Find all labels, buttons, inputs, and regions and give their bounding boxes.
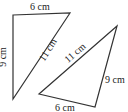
congruent-triangles-diagram: 6 cm 9 cm 11 cm 11 cm 9 cm 6 cm <box>0 0 128 112</box>
triangle-2-bottom-label: 6 cm <box>55 103 75 112</box>
triangle-1-left-label: 9 cm <box>0 47 8 67</box>
triangle-1-top-label: 6 cm <box>30 2 50 12</box>
triangle-2-right-label: 9 cm <box>105 75 125 85</box>
